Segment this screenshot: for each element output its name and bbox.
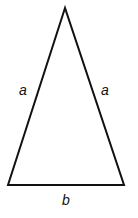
left-side-label: a bbox=[19, 82, 27, 98]
triangle-figure: a a b bbox=[0, 0, 138, 218]
diagram-canvas: a a b bbox=[0, 0, 138, 218]
base-label: b bbox=[62, 192, 70, 208]
right-side-label: a bbox=[101, 82, 109, 98]
